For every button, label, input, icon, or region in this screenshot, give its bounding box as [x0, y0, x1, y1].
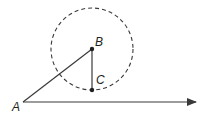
segment-ab	[23, 49, 92, 102]
label-c: C	[96, 73, 105, 87]
point-b-dot	[90, 47, 94, 51]
label-b: B	[95, 35, 103, 49]
label-a: A	[11, 100, 20, 114]
geometry-diagram: A B C	[0, 0, 202, 138]
point-c-dot	[90, 88, 94, 92]
